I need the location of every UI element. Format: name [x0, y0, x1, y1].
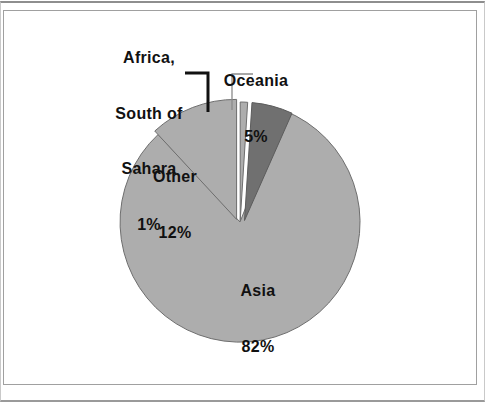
chart-canvas: Africa, South of Sahara 1% Oceania 5% Ot… [0, 0, 486, 404]
pie-label-oceania-name: Oceania [201, 72, 311, 91]
pie-label-africa-line2: South of [90, 105, 208, 124]
pie-label-other-value: 12% [133, 224, 217, 243]
pie-label-other-name: Other [133, 168, 217, 187]
pie-label-asia-name: Asia [216, 282, 300, 301]
pie-label-asia-value: 82% [216, 338, 300, 357]
pie-label-africa-line1: Africa, [90, 49, 208, 68]
pie-label-other: Other 12% [133, 131, 217, 279]
pie-label-oceania: Oceania 5% [201, 35, 311, 183]
pie-label-oceania-value: 5% [201, 128, 311, 147]
pie-label-asia: Asia 82% [216, 245, 300, 393]
